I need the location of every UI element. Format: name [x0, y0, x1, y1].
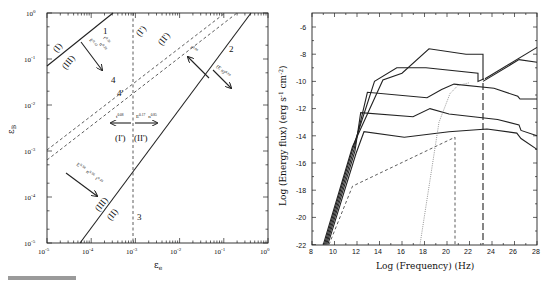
region-I: (I)	[51, 41, 64, 54]
left-y-ticks	[47, 13, 268, 243]
dashed-curve	[329, 137, 455, 244]
svg-text:24: 24	[487, 248, 495, 255]
right-x-tick-labels: 8 10 12 14 16 18 20 22 24 26 28	[309, 248, 540, 255]
svg-text:10-5: 10-5	[24, 239, 36, 248]
svg-text:t0.88: t0.88	[189, 44, 199, 54]
svg-text:12: 12	[352, 248, 360, 255]
right-y-axis-title: Log (Energy flux) (erg s-1 cm-2)	[277, 65, 288, 206]
left-x-axis-title: εe	[154, 260, 163, 271]
svg-text:28: 28	[532, 248, 540, 255]
curve-1	[323, 49, 483, 245]
svg-text:-16: -16	[296, 160, 306, 167]
svg-text:10-2: 10-2	[24, 101, 36, 110]
svg-text:-20: -20	[296, 214, 306, 221]
right-panel: 8 10 12 14 16 18 20 22 24 26 28 -6 -8 -1…	[277, 13, 540, 271]
left-x-tick-labels: 10-5 10-4 10-3 10-2 10-1 100	[38, 247, 270, 256]
svg-text:-12: -12	[296, 105, 306, 112]
svg-text:20: 20	[442, 248, 450, 255]
region-IIp-top: (II')	[156, 30, 172, 47]
svg-text:10-3: 10-3	[126, 247, 138, 256]
left-x-ticks	[47, 13, 268, 243]
label-line-1: 1	[103, 26, 108, 36]
svg-text:10: 10	[329, 248, 337, 255]
svg-text:10-3: 10-3	[24, 147, 36, 156]
figure: 10-5 10-4 10-3 10-2 10-1 100 100 10-1 10…	[0, 0, 550, 283]
right-y-tick-labels: -6 -8 -10 -12 -14 -16 -18 -20 -22	[296, 24, 306, 249]
left-y-tick-labels: 100 10-1 10-2 10-3 10-4 10-5	[24, 9, 36, 248]
ic-upper	[485, 47, 537, 78]
region-III-top: (III)	[60, 53, 77, 71]
arrow-a	[81, 42, 102, 70]
svg-text:E0.43: E0.43	[88, 37, 98, 48]
svg-text:26: 26	[509, 248, 517, 255]
svg-text:10-2: 10-2	[170, 247, 182, 256]
arrow-b	[188, 57, 209, 78]
left-panel: 10-5 10-4 10-3 10-2 10-1 100 100 10-1 10…	[6, 9, 270, 271]
svg-text:-18: -18	[296, 187, 306, 194]
label-line-4: 4	[111, 75, 116, 85]
ic-upper-2	[483, 60, 537, 82]
left-lines	[47, 13, 251, 243]
svg-text:E0.38n0.36t0.10: E0.38n0.36t0.10	[75, 161, 104, 185]
right-y-ticks	[312, 27, 537, 245]
svg-text:16: 16	[397, 248, 405, 255]
left-plot-frame	[47, 13, 268, 243]
svg-text:t0.08: t0.08	[116, 113, 124, 119]
svg-text:-6: -6	[300, 24, 306, 31]
svg-text:100: 100	[26, 9, 36, 18]
svg-text:-8: -8	[300, 51, 306, 58]
svg-text:n0.38: n0.38	[98, 41, 108, 52]
right-x-ticks	[312, 13, 537, 245]
svg-text:E0.17n0.85: E0.17n0.85	[136, 113, 157, 119]
svg-text:10-1: 10-1	[214, 247, 226, 256]
curve-3	[326, 84, 538, 245]
svg-text:-10: -10	[296, 78, 306, 85]
left-y-axis-title: εB	[6, 124, 17, 134]
region-IIp-mid: (II')	[134, 133, 148, 143]
right-x-axis-title: Log (Frequency) (Hz)	[376, 261, 474, 271]
label-line-3: 3	[137, 212, 142, 222]
svg-text:10-5: 10-5	[38, 247, 50, 256]
dotted-curve	[420, 83, 470, 245]
label-line-4-prime: 4'	[117, 88, 124, 98]
svg-text:10-4: 10-4	[82, 247, 94, 256]
svg-text:100: 100	[260, 247, 270, 256]
label-line-2: 2	[229, 44, 234, 54]
svg-text:8: 8	[309, 248, 313, 255]
svg-text:10-1: 10-1	[24, 55, 36, 64]
arrow-f	[66, 173, 97, 196]
svg-text:(E n)0.88: (E n)0.88	[215, 63, 231, 79]
right-curves	[323, 47, 537, 244]
svg-text:-22: -22	[296, 242, 306, 249]
region-III-bot: (III)	[93, 195, 110, 213]
arrow-labels: E0.43 t0.36 n0.38 t0.88 (E n)0.88 t0.08 …	[75, 35, 231, 185]
svg-text:10-4: 10-4	[24, 193, 36, 202]
curve-2	[324, 68, 484, 245]
curve-5	[328, 129, 537, 245]
region-II-bot: (II)	[105, 207, 120, 223]
svg-text:18: 18	[419, 248, 427, 255]
curve-4	[327, 109, 537, 245]
svg-text:22: 22	[464, 248, 472, 255]
svg-text:14: 14	[374, 248, 382, 255]
region-Ip-top: (I')	[134, 24, 148, 39]
region-Ip-mid: (I')	[115, 133, 126, 143]
caption-bar	[8, 276, 76, 280]
right-plot-frame	[312, 13, 537, 245]
svg-text:-14: -14	[296, 133, 306, 140]
